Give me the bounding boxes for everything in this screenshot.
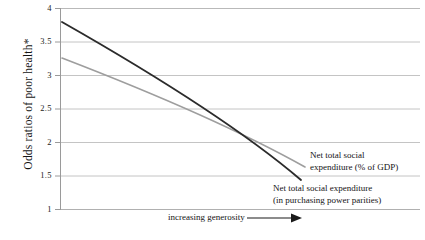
chart-figure: Odds ratios of poor health* 4 3.5 3 2.5 … [0, 0, 425, 240]
y-axis-line [55, 8, 61, 210]
series-label-ppp-line1: Net total social expenditure [273, 183, 381, 195]
series-label-gdp: Net total social expenditure (% of GDP) [310, 150, 398, 173]
x-axis-caption: increasing generosity [168, 212, 245, 222]
x-axis-arrow [247, 214, 302, 223]
series-label-gdp-line2: expenditure (% of GDP) [310, 162, 398, 174]
gridlines [60, 9, 420, 210]
series-label-ppp: Net total social expenditure (in purchas… [273, 183, 381, 206]
series-line-ppp [62, 22, 301, 180]
series-label-ppp-line2: (in purchasing power parities) [273, 195, 381, 207]
series-line-gdp [62, 58, 305, 167]
series-label-gdp-line1: Net total social [310, 150, 398, 162]
